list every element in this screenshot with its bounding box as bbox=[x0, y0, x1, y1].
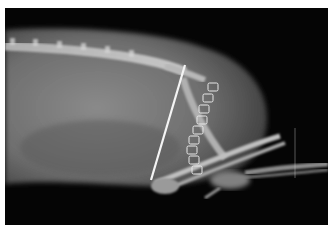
xray-drawing bbox=[5, 8, 328, 225]
radiograph-image bbox=[5, 8, 328, 225]
